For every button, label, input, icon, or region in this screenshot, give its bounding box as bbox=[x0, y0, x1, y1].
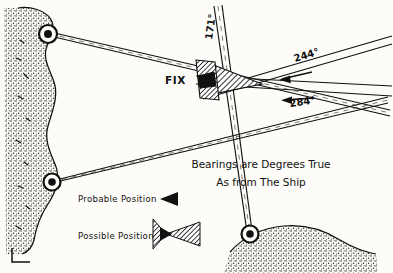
note-line-2: As from The Ship bbox=[216, 176, 306, 188]
bearing-fix-diagram: 171° 244° 284° FIX Probable Position Pos… bbox=[0, 0, 393, 273]
legend-label-possible-position: Possible Position bbox=[78, 231, 154, 241]
note-line-1: Bearings are Degrees True bbox=[191, 158, 330, 170]
landmark-mid-left bbox=[44, 174, 61, 191]
fix-label: FIX bbox=[165, 74, 186, 86]
landmark-top-left bbox=[39, 25, 57, 43]
legend-label-probable-position: Probable Position bbox=[78, 194, 157, 204]
landmark-bottom-right bbox=[242, 226, 259, 243]
